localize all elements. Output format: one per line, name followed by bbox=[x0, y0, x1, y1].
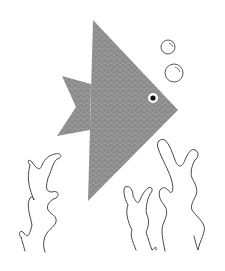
bubble-small bbox=[161, 40, 175, 54]
seaweed-left bbox=[20, 154, 61, 252]
fish-eye bbox=[148, 93, 158, 103]
illustration bbox=[0, 0, 225, 271]
bubble-large bbox=[165, 64, 183, 82]
bubbles bbox=[161, 40, 183, 82]
seaweed-center bbox=[124, 187, 156, 250]
fish bbox=[57, 20, 178, 201]
fish-tail bbox=[57, 76, 91, 136]
seaweed-right bbox=[157, 139, 204, 251]
